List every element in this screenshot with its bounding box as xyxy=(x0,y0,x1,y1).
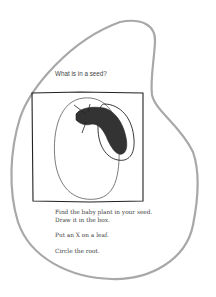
instruction-draw: Draw it in the box. xyxy=(55,217,110,225)
instruction-x-leaf: Put an X on a leaf. xyxy=(55,232,109,240)
embryo-drawing xyxy=(76,107,127,154)
drawing-box[interactable] xyxy=(0,0,216,297)
instruction-find: Find the baby plant in your seed. xyxy=(55,209,152,217)
instruction-circle-root: Circle the root. xyxy=(55,248,100,256)
